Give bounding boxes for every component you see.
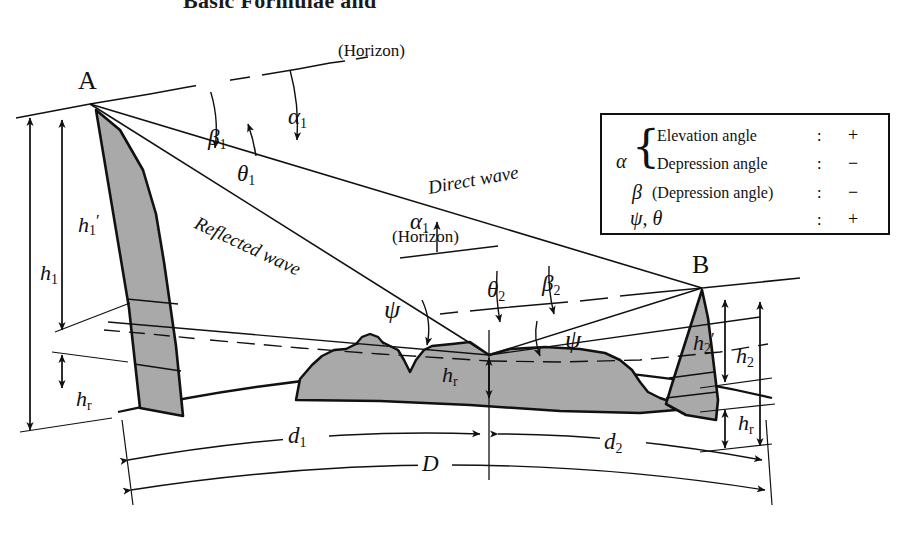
left-base-tick	[20, 418, 112, 432]
horizon-line-b-dash1	[580, 298, 608, 301]
diagram-page: Basic Formulae and	[0, 0, 905, 539]
point-b-label: B	[692, 252, 709, 278]
hr-left-h: h	[76, 386, 87, 411]
beta2-subscript: 2	[553, 283, 560, 298]
hr-right-label: hr	[738, 412, 754, 437]
h1-prime-label: h1′	[78, 212, 100, 238]
legend-psi-theta-symbol: ψ, θ	[630, 208, 662, 228]
hr-center-label: hr	[442, 364, 458, 389]
beta2-symbol: β	[542, 271, 553, 296]
legend-row-0-colon: :	[817, 127, 821, 145]
b-right-reference-line	[702, 278, 800, 288]
alpha1-top-symbol: α	[288, 104, 300, 129]
h2-h: h	[736, 343, 747, 368]
h2-prime-label: h2′	[693, 330, 715, 356]
d2-d: d	[604, 429, 616, 454]
h2-subscript: 2	[747, 355, 754, 370]
angle-sign-legend: α { Elevation angle : + Depression angle…	[600, 113, 890, 235]
psi-right-label: ψ	[565, 327, 581, 353]
psi-left-label: ψ	[384, 297, 400, 323]
alpha1-top-subscript: 1	[300, 116, 307, 131]
legend-row-2-text: (Depression angle)	[652, 184, 773, 202]
d-left-extension	[122, 420, 133, 505]
h1-label: h1	[40, 262, 58, 287]
left-h1prime-base-tick	[55, 303, 130, 332]
hr-right-subscript: r	[749, 422, 754, 437]
theta1-symbol: θ	[237, 161, 248, 186]
legend-row-2-colon: :	[817, 184, 821, 202]
D-label: D	[422, 452, 439, 475]
horizon-gap-mask	[196, 68, 230, 92]
horizon-label-top: (Horizon)	[338, 42, 405, 59]
reflected-wave-reflected-line	[489, 288, 702, 355]
left-hr-upper-tick	[52, 352, 128, 362]
beta1-subscript: 1	[219, 137, 226, 152]
h2-prime-mark: ′	[711, 329, 715, 348]
theta2-subscript: 2	[498, 289, 505, 304]
h2-prime-subscript: 2	[704, 341, 711, 356]
a-left-reference-line	[16, 104, 90, 118]
alpha1-mid-symbol: α	[410, 209, 422, 234]
h2-prime-h: h	[693, 330, 704, 355]
legend-row-0-sign: +	[848, 125, 858, 146]
alpha1-mid-subscript: 1	[422, 221, 429, 236]
psi-left-arc	[422, 300, 429, 345]
hr-right-h: h	[738, 410, 749, 435]
h1-prime-subscript: 1	[89, 223, 96, 238]
point-a-label: A	[78, 68, 97, 94]
d1-subscript: 1	[300, 435, 307, 450]
hr-left-subscript: r	[87, 398, 92, 413]
legend-alpha-symbol: α	[616, 151, 627, 171]
horizon-line-a-solid1	[90, 85, 200, 104]
tangent-plane-line-right	[489, 317, 760, 355]
legend-row-0-text: Elevation angle	[657, 127, 757, 145]
legend-row-3-sign: +	[848, 209, 858, 230]
horizon-line-b-dash2	[440, 312, 458, 314]
h2-label: h2	[736, 345, 754, 370]
beta1-label: β1	[208, 126, 226, 152]
theta2-label: θ2	[487, 278, 505, 304]
terrain-center-mass	[296, 337, 676, 413]
mid-horizon-underline	[400, 246, 498, 258]
theta1-label: θ1	[237, 162, 255, 188]
h1-prime-mark: ′	[96, 211, 100, 230]
legend-row-1-colon: :	[817, 155, 821, 173]
theta2-symbol: θ	[487, 277, 498, 302]
legend-row-3-colon: :	[817, 211, 821, 229]
legend-brace-icon: {	[632, 125, 660, 169]
d-right-extension	[766, 420, 772, 505]
alpha1-top-label: α1	[288, 105, 307, 131]
d1-d: d	[288, 423, 300, 448]
legend-row-1-sign: −	[848, 153, 858, 174]
d2-label: d2	[604, 430, 623, 456]
hr-center-h: h	[442, 362, 453, 387]
hr-center-subscript: r	[453, 374, 458, 389]
h1-subscript: 1	[51, 272, 58, 287]
horizon-line-a-solid2	[262, 61, 345, 75]
h1-h: h	[40, 260, 51, 285]
legend-row-1-text: Depression angle	[657, 155, 768, 173]
theta1-subscript: 1	[248, 173, 255, 188]
d2-subscript: 2	[616, 441, 623, 456]
propagation-diagram-svg	[0, 0, 905, 539]
alpha1-mid-label: α1	[410, 210, 429, 236]
hr-left-label: hr	[76, 388, 92, 413]
legend-beta-symbol: β	[632, 182, 642, 202]
terrain-center-peak-detail	[356, 334, 384, 344]
h1-prime-h: h	[78, 212, 89, 237]
beta2-label: β2	[542, 272, 560, 298]
d1-label: d1	[288, 424, 307, 450]
legend-row-2-sign: −	[848, 182, 858, 203]
beta1-symbol: β	[208, 125, 219, 150]
